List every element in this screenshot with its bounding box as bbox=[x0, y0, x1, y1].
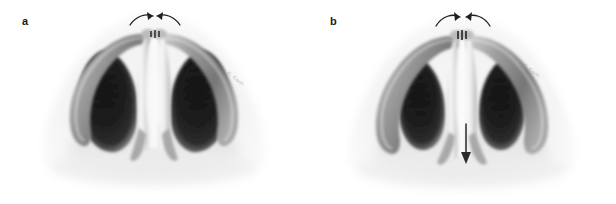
nasal-base-illustration-b bbox=[308, 0, 616, 204]
panel-b: b bbox=[308, 0, 616, 204]
nasal-base-illustration-a bbox=[0, 0, 308, 204]
figure-container: a bbox=[0, 0, 616, 204]
panel-label-b: b bbox=[330, 16, 337, 27]
panel-a: a bbox=[0, 0, 308, 204]
panel-label-a: a bbox=[22, 16, 28, 27]
